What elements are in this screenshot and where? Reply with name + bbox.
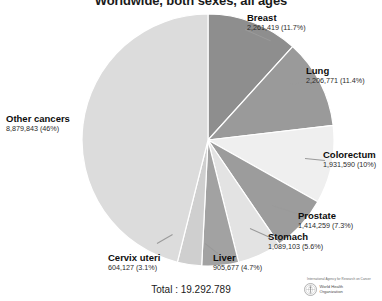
who-org-text: World Health Organization bbox=[320, 284, 344, 294]
slice-label-other-cancers: Other cancers 8,879,843 (46%) bbox=[6, 114, 70, 133]
slice-label-prostate-value: 1,414,259 (7.3%) bbox=[298, 222, 353, 230]
chart-canvas: Worldwide, both sexes, all ages Breast 2… bbox=[0, 0, 382, 301]
iarc-agency-line: International Agency for Research on Can… bbox=[307, 277, 380, 281]
slice-label-breast-name: Breast bbox=[247, 13, 306, 24]
slice-label-liver-value: 905,677 (4.7%) bbox=[213, 264, 262, 272]
slice-label-colorectum-name: Colorectum bbox=[323, 150, 376, 161]
slice-label-cervix-uteri: Cervix uteri 604,127 (3.1%) bbox=[108, 253, 160, 272]
slice-label-other-cancers-name: Other cancers bbox=[6, 114, 70, 125]
slice-label-colorectum: Colorectum 1,931,590 (10%) bbox=[323, 150, 376, 169]
who-logo-row: World Health Organization bbox=[304, 283, 380, 296]
slice-label-stomach: Stomach 1,089,103 (5.6%) bbox=[268, 232, 323, 251]
slice-label-lung: Lung 2,206,771 (11.4%) bbox=[306, 66, 365, 85]
slice-label-liver: Liver 905,677 (4.7%) bbox=[213, 253, 262, 272]
slice-label-prostate-name: Prostate bbox=[298, 211, 353, 222]
slice-label-cervix-uteri-value: 604,127 (3.1%) bbox=[108, 264, 160, 272]
slice-label-cervix-uteri-name: Cervix uteri bbox=[108, 253, 160, 264]
who-emblem-icon bbox=[304, 283, 317, 296]
chart-title: Worldwide, both sexes, all ages bbox=[0, 0, 382, 8]
slice-label-stomach-name: Stomach bbox=[268, 232, 323, 243]
who-org-line-2: Organization bbox=[320, 289, 344, 294]
pie-slice-group bbox=[82, 14, 334, 266]
slice-label-breast: Breast 2,261,419 (11.7%) bbox=[247, 13, 306, 32]
who-iarc-logo: International Agency for Research on Can… bbox=[304, 277, 380, 299]
slice-label-liver-name: Liver bbox=[213, 253, 262, 264]
slice-label-breast-value: 2,261,419 (11.7%) bbox=[247, 24, 306, 32]
slice-label-stomach-value: 1,089,103 (5.6%) bbox=[268, 243, 323, 251]
slice-label-lung-name: Lung bbox=[306, 66, 365, 77]
slice-label-other-cancers-value: 8,879,843 (46%) bbox=[6, 125, 70, 133]
slice-label-lung-value: 2,206,771 (11.4%) bbox=[306, 77, 365, 85]
slice-label-prostate: Prostate 1,414,259 (7.3%) bbox=[298, 211, 353, 230]
slice-label-colorectum-value: 1,931,590 (10%) bbox=[323, 161, 376, 169]
